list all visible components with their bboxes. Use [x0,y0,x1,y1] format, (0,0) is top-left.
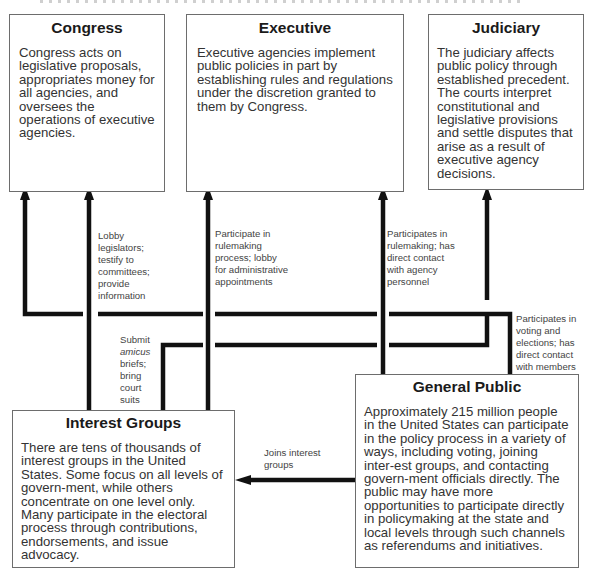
label-amicus-italic: amicus [120,346,150,357]
label-public-voting: Participates in voting and elections; ha… [516,313,588,373]
judiciary-box: Judiciary The judiciary affects public p… [428,14,584,190]
ig-amicus-line [163,345,203,410]
executive-title: Executive [197,19,393,37]
ig-to-congress-line [25,198,83,314]
label-participate-rulemaking: Participate in rulemaking process; lobby… [215,228,289,288]
congress-body: Congress acts on legislative proposals, … [19,46,155,140]
general-public-body: Approximately 215 million people in the … [364,405,570,552]
label-amicus: Submit amicus briefs; bring court suits [120,334,158,406]
interest-groups-body: There are tens of thousands of interest … [21,441,226,562]
interest-groups-box: Interest Groups There are tens of thousa… [12,410,235,568]
executive-box: Executive Executive agencies implement p… [186,14,404,192]
congress-box: Congress Congress acts on legislative pr… [9,14,165,192]
congress-title: Congress [19,19,155,37]
executive-body: Executive agencies implement public poli… [197,46,393,113]
arrowhead-interest-groups [235,475,251,485]
label-amicus-suffix: briefs; bring court suits [120,358,146,405]
label-amicus-prefix: Submit [120,334,150,345]
judiciary-body: The judiciary affects public policy thro… [437,46,575,180]
interest-groups-title: Interest Groups [21,414,226,432]
judiciary-title: Judiciary [437,19,575,37]
general-public-title: General Public [364,378,570,396]
label-public-rulemaking: Participates in rulemaking; has direct c… [387,228,455,288]
general-public-box: General Public Approximately 215 million… [355,374,579,568]
label-joins-groups: Joins interest groups [264,447,344,471]
label-lobby-legislators: Lobby legislators; testify to committees… [98,230,160,302]
